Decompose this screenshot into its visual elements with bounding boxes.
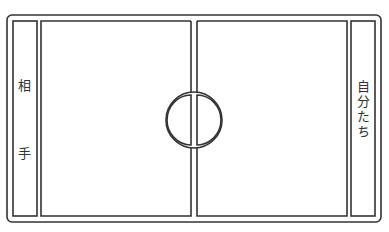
left-zone-label-top: 相 bbox=[18, 79, 31, 92]
center-circle-outer bbox=[166, 92, 222, 148]
left-zone-label-bottom: 手 bbox=[18, 147, 31, 160]
center-circle-inner-left bbox=[167, 95, 191, 145]
right-zone-label: 自分たち bbox=[356, 80, 369, 140]
right-half-court bbox=[197, 21, 347, 216]
left-half-court bbox=[41, 21, 191, 216]
center-circle-inner-right bbox=[197, 95, 221, 145]
outer-frame bbox=[7, 15, 381, 222]
court-diagram bbox=[0, 0, 389, 232]
left-lane bbox=[13, 21, 37, 216]
